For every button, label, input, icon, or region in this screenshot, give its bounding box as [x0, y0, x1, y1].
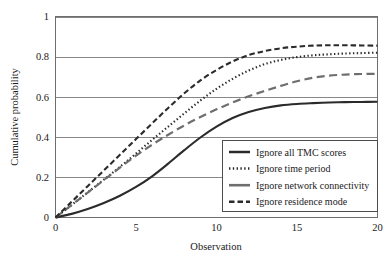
x-tick-label: 5 [133, 222, 138, 233]
legend: Ignore all TMC scoresIgnore time periodI… [223, 141, 378, 212]
x-tick-label: 0 [53, 222, 58, 233]
legend-item-label: Ignore network connectivity [256, 180, 369, 191]
x-axis-title: Observation [190, 241, 242, 252]
x-tick-label: 20 [372, 222, 383, 233]
figure-container: 00.20.40.60.81 05101520 Cumulative proba… [0, 0, 389, 260]
y-tick-label: 0.2 [36, 172, 49, 183]
y-tick-label: 0.4 [36, 132, 50, 143]
x-tick-label: 10 [211, 222, 222, 233]
legend-item-label: Ignore all TMC scores [256, 147, 346, 158]
legend-item-label: Ignore residence mode [256, 196, 348, 207]
y-tick-label: 1 [44, 11, 49, 22]
cumulative-probability-chart: 00.20.40.60.81 05101520 Cumulative proba… [0, 0, 389, 260]
legend-item-label: Ignore time period [256, 163, 330, 174]
y-tick-label: 0 [44, 212, 49, 223]
y-axis-title: Cumulative probability [9, 67, 20, 165]
y-tick-label: 0.8 [36, 51, 49, 62]
x-tick-label: 15 [292, 222, 303, 233]
chart-background [0, 0, 389, 260]
y-tick-label: 0.6 [36, 92, 49, 103]
